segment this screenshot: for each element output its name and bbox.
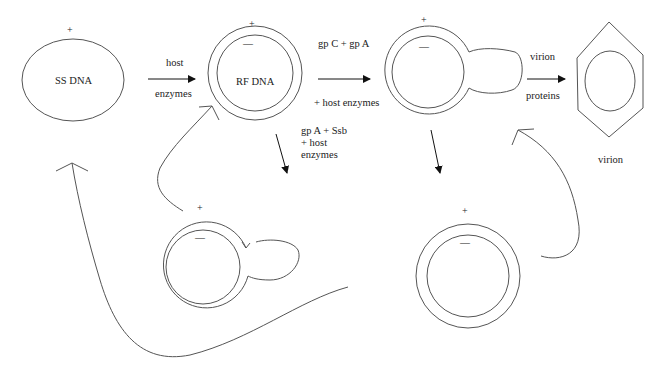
virion-label: virion <box>598 153 623 166</box>
edge-label-host: host <box>166 56 184 69</box>
virion-particle <box>577 22 643 137</box>
arrow-rolling-down <box>431 130 440 173</box>
rolling-bottom-minus: — <box>195 233 205 243</box>
rf-dna-label: RF DNA <box>236 75 274 88</box>
replication-diagram: + SS DNA + — RF DNA + — virion + — + — h… <box>0 0 664 375</box>
arrow-rf-down <box>276 134 287 173</box>
rolling-top-plus: + <box>421 15 427 25</box>
arrow-return-to-rf <box>158 106 212 211</box>
rf-bottom-minus: — <box>460 238 470 248</box>
edge-label-proteins: proteins <box>526 89 560 102</box>
arrow-return-to-rolling <box>518 130 579 258</box>
diagram-graphics <box>0 0 664 375</box>
ss-dna-plus: + <box>67 25 73 35</box>
edge-label-enzymes: enzymes <box>155 87 192 100</box>
rolling-bottom-plus: + <box>197 203 203 213</box>
ss-dna-label: SS DNA <box>55 74 92 87</box>
edge-label-host-enzymes: + host enzymes <box>314 96 379 109</box>
rolling-circle-top <box>385 26 522 114</box>
rf-dna-circle <box>208 26 302 120</box>
edge-label-enzymes-2: enzymes <box>301 148 338 161</box>
rolling-circle-bottom <box>163 222 299 308</box>
rf-bottom-plus: + <box>462 206 468 216</box>
rolling-top-minus: — <box>419 42 429 52</box>
arrow-return-to-ss-dna <box>72 163 348 357</box>
edge-label-virion: virion <box>530 50 555 63</box>
edge-label-gpc-gpa: gp C + gp A <box>318 37 369 50</box>
rf-dna-minus: — <box>243 39 253 49</box>
rf-dna-plus: + <box>249 19 255 29</box>
